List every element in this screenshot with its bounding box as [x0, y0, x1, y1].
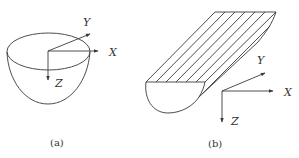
- z-axis-label: Z: [54, 77, 63, 90]
- y-axis-label: Y: [257, 54, 266, 67]
- panel-a-bowl: [7, 33, 90, 104]
- caption-b: (b): [208, 138, 222, 149]
- trough-front-profile: [146, 82, 205, 113]
- figure-canvas: Y X Z (a) Y X: [0, 0, 299, 158]
- y-axis-arrow-icon: [222, 73, 265, 91]
- x-axis-label: X: [108, 46, 118, 59]
- y-axis-arrow-icon: [48, 34, 90, 51]
- bowl-body-outline: [7, 52, 90, 104]
- caption-a: (a): [50, 137, 64, 148]
- x-axis-label: X: [283, 86, 293, 99]
- z-axis-label: Z: [230, 115, 239, 128]
- bowl-rim-ellipse: [7, 33, 90, 70]
- y-axis-label: Y: [83, 16, 92, 29]
